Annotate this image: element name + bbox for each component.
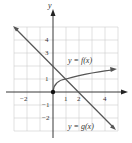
tick-y-neg1: −1 — [42, 101, 50, 109]
f-curve — [53, 70, 112, 92]
tick-x-1: 1 — [64, 95, 68, 103]
tick-y-neg2: −2 — [42, 114, 50, 122]
tick-x-neg2: −2 — [20, 95, 28, 103]
y-axis-label: y — [47, 1, 52, 10]
tick-y-4: 4 — [45, 36, 49, 44]
tick-y-1: 1 — [45, 75, 49, 83]
tick-y-3: 3 — [45, 49, 49, 57]
function-graph: y −2 1 2 4 4 3 1 −1 −2 y = f(x) y = g(x) — [0, 0, 132, 143]
tick-x-2: 2 — [77, 95, 81, 103]
tick-x-4: 4 — [103, 95, 107, 103]
x-axis-arrow-icon — [121, 90, 128, 95]
g-label: y = g(x) — [67, 122, 94, 131]
axes — [6, 12, 125, 138]
f-label: y = f(x) — [67, 56, 92, 65]
f-arrow-end-icon — [110, 67, 117, 72]
g-line — [15, 28, 114, 128]
y-axis-arrow-icon — [51, 9, 56, 16]
origin-point — [51, 90, 55, 94]
